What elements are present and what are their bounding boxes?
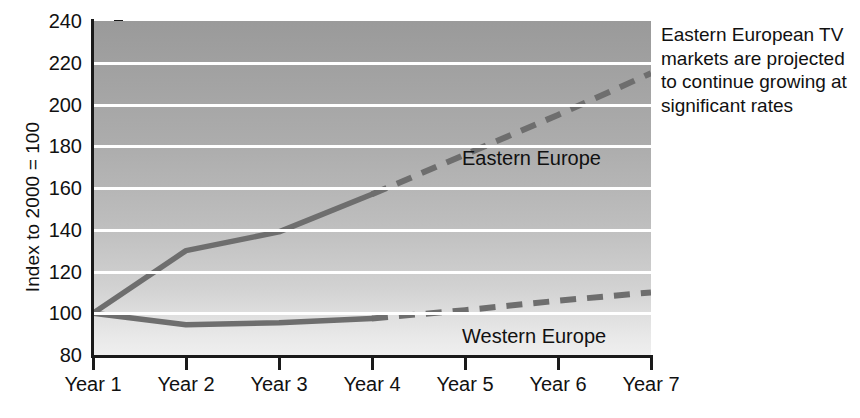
gridline	[93, 271, 651, 274]
y-tick-label: 220	[30, 53, 82, 73]
x-tick-mark	[464, 357, 467, 370]
gridline	[93, 229, 651, 232]
x-tick-mark	[557, 357, 560, 370]
y-tick-label: 200	[30, 95, 82, 115]
gridline	[93, 62, 651, 65]
y-tick-label: 100	[30, 303, 82, 323]
x-tick-label: Year 7	[596, 373, 706, 395]
line-chart: Index to 2000 = 100 240 220 200 180 160 …	[0, 0, 860, 418]
y-tick-label: 240	[30, 11, 82, 31]
y-tick-label: 80	[30, 345, 82, 365]
x-tick-mark	[278, 357, 281, 370]
y-axis-line	[91, 19, 94, 357]
y-tick-label: 120	[30, 262, 82, 282]
x-tick-mark	[92, 357, 95, 370]
y-tick-label: 160	[30, 178, 82, 198]
eastern-europe-projected-line	[372, 73, 651, 194]
series-label-western-europe: Western Europe	[462, 325, 606, 347]
x-tick-mark	[650, 357, 653, 370]
y-tick-label: 140	[30, 220, 82, 240]
plot-area	[93, 21, 651, 355]
chart-annotation: Eastern European TV markets are projecte…	[661, 23, 857, 117]
series-label-eastern-europe: Eastern Europe	[462, 147, 601, 169]
gridline	[93, 104, 651, 107]
gridline	[93, 312, 651, 315]
x-tick-mark	[371, 357, 374, 370]
eastern-europe-solid-line	[93, 194, 372, 313]
y-tick-label: 180	[30, 136, 82, 156]
gridline	[93, 187, 651, 190]
y-axis-tick-labels: 240 220 200 180 160 140 120 100 80	[30, 0, 82, 418]
x-tick-mark	[185, 357, 188, 370]
